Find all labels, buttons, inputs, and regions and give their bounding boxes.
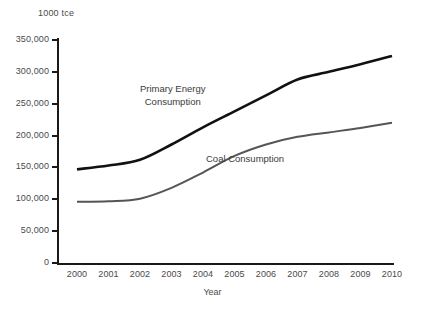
annotation-primary-energy-consumption: Primary Energy Consumption — [140, 82, 205, 108]
series-lines — [77, 56, 392, 202]
annotation-primary-line-2: Consumption — [140, 95, 205, 108]
annotation-coal-consumption: Coal Consumption — [206, 152, 284, 165]
energy-consumption-chart: 1000 tce 050,000100,000150,000200,000250… — [0, 0, 425, 310]
x-axis-title: Year — [0, 287, 425, 297]
annotation-primary-line-1: Primary Energy — [140, 82, 205, 95]
